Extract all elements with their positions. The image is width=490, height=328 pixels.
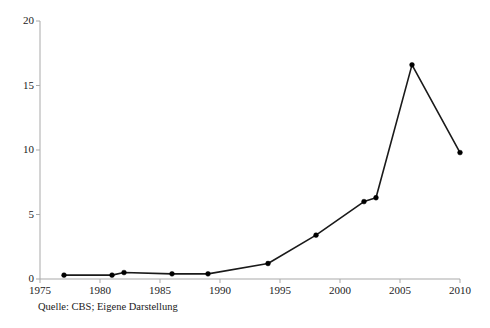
x-axis-tick-label: 2010 [430, 285, 490, 296]
x-axis-tick-label: 1975 [10, 285, 70, 296]
data-point[interactable] [410, 62, 415, 67]
x-axis-tick-label: 1990 [190, 285, 250, 296]
x-axis-tick-label: 2000 [310, 285, 370, 296]
data-line-series-1 [64, 65, 460, 275]
x-axis-tick-labels: 19751980198519901995200020052010 [0, 285, 490, 300]
x-axis-tick-label: 1985 [130, 285, 190, 296]
x-axis-tick-label: 1995 [250, 285, 310, 296]
chart-figure: 05101520 1975198019851990199520002005201… [0, 0, 490, 328]
data-point[interactable] [110, 273, 115, 278]
data-point[interactable] [266, 261, 271, 266]
data-point[interactable] [122, 270, 127, 275]
data-point[interactable] [458, 150, 463, 155]
data-point[interactable] [206, 271, 211, 276]
data-point[interactable] [362, 199, 367, 204]
data-point[interactable] [170, 271, 175, 276]
data-point[interactable] [314, 233, 319, 238]
data-point[interactable] [62, 273, 67, 278]
plot-area [0, 0, 490, 300]
data-point[interactable] [374, 195, 379, 200]
source-caption: Quelle: CBS; Eigene Darstellung [38, 300, 178, 313]
x-axis-tick-label: 2005 [370, 285, 430, 296]
x-axis-tick-label: 1980 [70, 285, 130, 296]
